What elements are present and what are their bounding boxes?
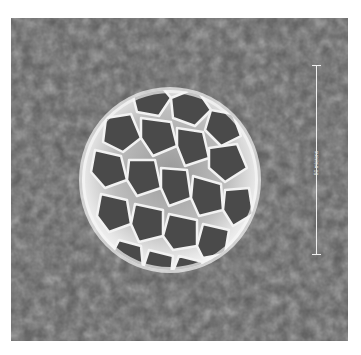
micrograph <box>11 18 348 341</box>
scale-bar-bottom-cap <box>312 254 321 255</box>
micrograph-canvas <box>11 18 348 341</box>
scale-bar-top-cap <box>312 65 321 66</box>
scale-bar-label: 50 microns <box>313 143 319 183</box>
